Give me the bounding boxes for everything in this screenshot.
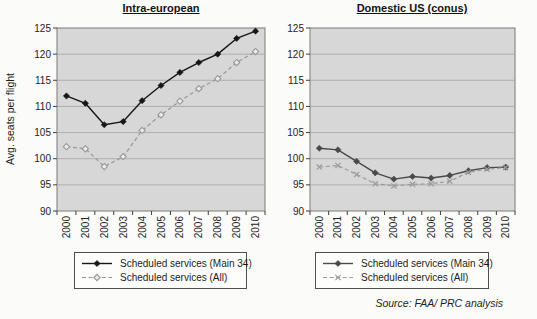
- y-tick-label: 100: [34, 153, 51, 164]
- y-tick-label: 105: [34, 127, 51, 138]
- x-tick-label: 2003: [118, 216, 129, 239]
- x-tick-label: 2010: [500, 216, 511, 239]
- x-tick-label: 2006: [174, 216, 185, 239]
- y-tick-label: 95: [40, 179, 52, 190]
- x-tick-label: 2007: [444, 216, 455, 239]
- x-tick-label: 2004: [137, 216, 148, 239]
- y-tick-label: 125: [34, 23, 51, 34]
- y-tick-label: 120: [287, 49, 304, 60]
- y-tick-label: 105: [287, 127, 304, 138]
- legend-marker-all-icon: [81, 272, 113, 283]
- y-tick-label: 125: [287, 23, 304, 34]
- x-tick-label: 2003: [370, 216, 381, 239]
- y-tick-label: 110: [288, 101, 304, 112]
- legend-marker-main34-icon: [81, 258, 113, 269]
- legend-item: Scheduled services (All): [81, 272, 240, 283]
- x-tick-label: 2007: [193, 216, 204, 239]
- legend-item: Scheduled services (All): [322, 272, 482, 283]
- y-tick-label: 95: [293, 179, 305, 190]
- x-tick-label: 2001: [80, 216, 91, 239]
- x-tick-label: 2002: [99, 216, 110, 239]
- plot-background: [57, 28, 265, 211]
- legend-item: Scheduled services (Main 34): [81, 258, 240, 269]
- legend-marker-main34-icon: [322, 258, 354, 269]
- x-tick-label: 2005: [407, 216, 418, 239]
- source-note: Source: FAA/ PRC analysis: [375, 297, 503, 309]
- x-tick-label: 2010: [250, 216, 261, 239]
- x-tick-label: 2008: [212, 216, 223, 239]
- x-tick-label: 2009: [231, 216, 242, 239]
- legend-label: Scheduled services (All): [120, 272, 227, 283]
- chart-title-intra-european: Intra-european: [122, 2, 199, 14]
- legend-label: Scheduled services (Main 34): [120, 258, 252, 269]
- y-tick-label: 115: [288, 75, 304, 86]
- y-tick-label: 90: [293, 206, 305, 217]
- y-tick-label: 110: [35, 101, 51, 112]
- y-tick-label: 120: [34, 49, 51, 60]
- chart-title-domestic-us: Domestic US (conus): [357, 2, 468, 14]
- x-tick-label: 2004: [388, 216, 399, 239]
- x-tick-label: 2000: [61, 216, 72, 239]
- x-axis-ticks: 2000200120022003200420052006200720082009…: [310, 211, 515, 238]
- figure: 9095100105110115120125200020012002200320…: [0, 0, 537, 319]
- legend-label: Scheduled services (All): [361, 272, 468, 283]
- x-tick-label: 2006: [426, 216, 437, 239]
- chart-plot-domestic-us: 9095100105110115120125200020012002200320…: [287, 23, 515, 239]
- legend-label: Scheduled services (Main 34): [361, 258, 493, 269]
- legend-item: Scheduled services (Main 34): [322, 258, 482, 269]
- y-tick-label: 90: [40, 206, 52, 217]
- y-axis-title: Avg. seats per flight: [4, 49, 18, 189]
- legend-marker-all-icon: [322, 272, 354, 283]
- x-tick-label: 2008: [463, 216, 474, 239]
- legend-domestic-us: Scheduled services (Main 34) Scheduled s…: [315, 252, 489, 289]
- x-tick-label: 2001: [332, 216, 343, 239]
- y-tick-label: 115: [35, 75, 51, 86]
- x-axis-ticks: 2000200120022003200420052006200720082009…: [57, 211, 265, 238]
- x-tick-label: 2005: [156, 216, 167, 239]
- x-tick-label: 2002: [351, 216, 362, 239]
- y-axis-ticks: 9095100105110115120125: [34, 23, 57, 217]
- chart-plot-intra-european: 9095100105110115120125200020012002200320…: [34, 23, 265, 239]
- y-axis-ticks: 9095100105110115120125: [287, 23, 310, 217]
- y-tick-label: 100: [287, 153, 304, 164]
- x-tick-label: 2009: [482, 216, 493, 239]
- x-tick-label: 2000: [314, 216, 325, 239]
- legend-intra-european: Scheduled services (Main 34) Scheduled s…: [74, 252, 247, 289]
